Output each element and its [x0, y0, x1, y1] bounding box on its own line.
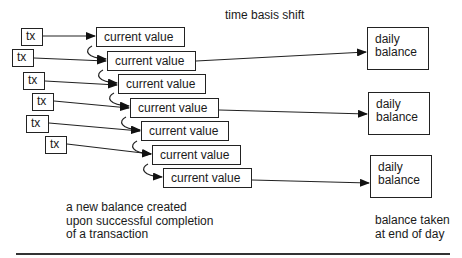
chain-arrow-1	[88, 46, 106, 59]
daily-balance-line2: balance	[375, 46, 428, 59]
tx-label: tx	[17, 50, 26, 64]
chain-arrow-6	[144, 164, 162, 177]
daily-balance-line2: balance	[378, 174, 431, 187]
caption-left-line: a new balance created	[66, 201, 213, 215]
balance-arrow-3	[252, 180, 369, 183]
bottom-divider	[16, 253, 450, 255]
current-value-box: current value	[130, 98, 219, 118]
tx-box: tx	[21, 28, 43, 46]
tx-box: tx	[12, 49, 34, 67]
tx-label: tx	[28, 73, 37, 87]
current-value-label: current value	[160, 148, 229, 162]
current-value-box: current value	[118, 74, 206, 94]
caption-right: balance taken at end of day	[375, 214, 450, 241]
tx-label: tx	[37, 94, 46, 108]
chain-arrow-2	[99, 70, 117, 83]
diagram-title: time basis shift	[225, 9, 304, 23]
current-value-label: current value	[149, 124, 218, 138]
tx-label: tx	[50, 137, 59, 151]
current-value-label: current value	[104, 30, 173, 44]
current-value-box: current value	[96, 27, 185, 47]
tx-label: tx	[26, 29, 35, 43]
caption-right-line: balance taken	[375, 214, 450, 228]
caption-left-line: upon successful completion	[66, 215, 213, 229]
tx-label: tx	[31, 116, 40, 130]
balance-arrow-1	[196, 52, 366, 61]
current-value-box: current value	[152, 145, 241, 165]
current-value-label: current value	[171, 171, 240, 185]
caption-right-line: at end of day	[375, 228, 450, 242]
current-value-label: current value	[126, 77, 195, 91]
chain-arrow-3	[110, 93, 129, 106]
tx-box: tx	[32, 93, 54, 111]
balance-arrow-2	[219, 110, 367, 114]
current-value-label: current value	[115, 54, 184, 68]
caption-left: a new balance created upon successful co…	[66, 201, 213, 242]
current-value-box: current value	[163, 168, 252, 188]
daily-balance-box: daily balance	[367, 27, 429, 70]
tx-arrow-2	[34, 58, 106, 61]
daily-balance-box: daily balance	[368, 92, 430, 135]
tx-box: tx	[26, 115, 49, 133]
caption-left-line: of a transaction	[66, 228, 213, 242]
current-value-label: current value	[138, 101, 207, 115]
current-value-box: current value	[107, 51, 196, 71]
tx-box: tx	[45, 136, 67, 154]
chain-arrow-4	[122, 117, 140, 130]
daily-balance-box: daily balance	[370, 155, 432, 198]
daily-balance-line2: balance	[376, 111, 429, 124]
current-value-box: current value	[141, 121, 229, 141]
tx-box: tx	[23, 72, 45, 90]
